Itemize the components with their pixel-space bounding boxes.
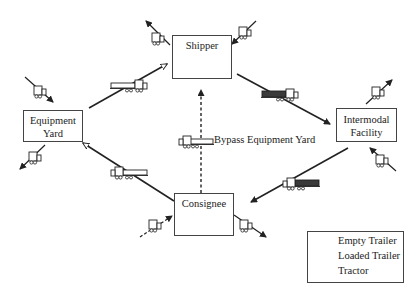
truck-loaded-shipper-intermodal <box>261 89 298 101</box>
intermodal-line1: Intermodal <box>337 113 396 126</box>
tractor-icon <box>240 220 252 232</box>
equipment-yard-line1: Equipment <box>24 114 82 127</box>
legend-loaded-trailer: Loaded Trailer <box>338 250 400 261</box>
shipper-label: Shipper <box>186 40 219 51</box>
legend-tractor: Tractor <box>338 265 369 276</box>
tractor-icon <box>239 27 251 39</box>
tractor-icon <box>152 33 164 45</box>
intermodal-line2: Facility <box>337 126 396 139</box>
node-equipment-yard: Equipment Yard <box>23 110 83 142</box>
equipment-yard-line2: Yard <box>24 127 82 140</box>
truck-empty-bypass <box>179 136 214 148</box>
legend-empty-trailer: Empty Trailer <box>338 235 397 246</box>
tractor-icon <box>149 220 161 232</box>
truck-loaded-intermodal-consignee <box>283 178 320 190</box>
node-shipper: Shipper <box>172 35 232 79</box>
legend: Empty Trailer Loaded Trailer Tractor <box>307 231 404 283</box>
node-intermodal-facility: Intermodal Facility <box>336 108 397 142</box>
tractor-icon <box>29 152 41 164</box>
consignee-label: Consignee <box>182 198 226 209</box>
bypass-label: Bypass Equipment Yard <box>214 134 315 145</box>
edge-intermodal-to-consignee <box>251 148 348 202</box>
tractor-icon <box>34 86 46 98</box>
truck-empty-consignee-yard <box>111 167 148 179</box>
node-consignee: Consignee <box>174 193 234 236</box>
tractor-icon <box>376 155 388 167</box>
truck-empty-yard-shipper <box>110 80 147 92</box>
